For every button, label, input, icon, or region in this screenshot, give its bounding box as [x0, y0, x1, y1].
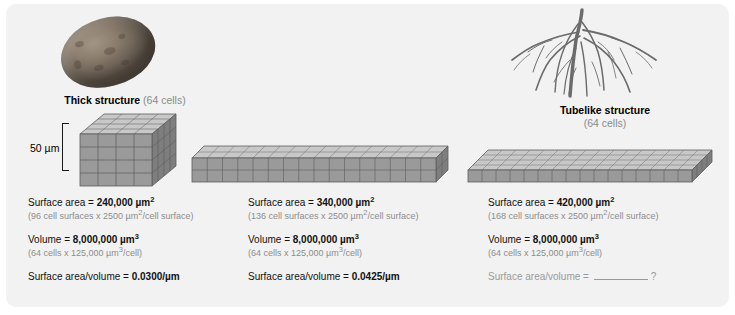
surface-area-detail-tube: (136 cell surfaces x 2500 µm — [248, 211, 363, 221]
cells-note-thick: (64 cells) — [143, 94, 186, 106]
ratio-value-thick: 0.0300/µm — [132, 271, 180, 282]
surface-area-value-thick: 240,000 µm — [97, 197, 151, 208]
stats-flattened-structure: Surface area = 420,000 µm2 (168 cell sur… — [488, 196, 728, 283]
block-tubelike-structure — [190, 144, 452, 186]
surface-area-value-flat: 420,000 µm — [557, 197, 611, 208]
surface-area-exp-tube: 2 — [370, 195, 374, 204]
volume-detail-end-thick: /cell) — [123, 248, 142, 258]
volume-exp-tube: 3 — [355, 232, 359, 241]
scale-label: 50 µm — [30, 142, 59, 154]
cube-4x4x4-svg — [76, 112, 188, 194]
ratio-question-mark: ? — [651, 271, 657, 282]
volume-value-flat: 8,000,000 µm — [533, 234, 595, 245]
volume-block-flat: Volume = 8,000,000 µm3 (64 cells x 125,0… — [488, 233, 728, 259]
ratio-thick: Surface area/volume = 0.0300/µm — [28, 270, 253, 283]
title-thick: Thick structure — [64, 94, 140, 106]
volume-detail-thick: (64 cells x 125,000 µm — [28, 248, 119, 258]
block-thick-structure — [76, 112, 186, 192]
stats-thick-structure: Surface area = 240,000 µm2 (96 cell surf… — [28, 196, 253, 283]
volume-detail-flat: (64 cells x 125,000 µm — [488, 248, 579, 258]
volume-block-thick: Volume = 8,000,000 µm3 (64 cells x 125,0… — [28, 233, 253, 259]
surface-area-exp-thick: 2 — [150, 195, 154, 204]
surface-area-detail-end-flat: /cell surface) — [607, 211, 658, 221]
heading-thick-structure: Thick structure (64 cells) — [0, 94, 250, 107]
surface-area-label-tube: Surface area = — [248, 197, 317, 208]
surface-area-exp-flat: 2 — [610, 195, 614, 204]
surface-area-block-flat: Surface area = 420,000 µm2 (168 cell sur… — [488, 196, 728, 222]
surface-area-detail-thick: (96 cell surfaces x 2500 µm — [28, 211, 138, 221]
volume-label-flat: Volume = — [488, 234, 533, 245]
volume-label-thick: Volume = — [28, 234, 73, 245]
stats-tubelike-structure: Surface area = 340,000 µm2 (136 cell sur… — [248, 196, 483, 283]
surface-area-label-thick: Surface area = — [28, 197, 97, 208]
ratio-label-tube: Surface area/volume = — [248, 271, 352, 282]
volume-detail-end-tube: /cell) — [343, 248, 362, 258]
potato-tuber-photo — [53, 7, 163, 98]
volume-label-tube: Volume = — [248, 234, 293, 245]
volume-detail-tube: (64 cells x 125,000 µm — [248, 248, 339, 258]
ratio-label-flat: Surface area/volume = — [488, 271, 592, 282]
ratio-answer-blank[interactable] — [594, 270, 648, 280]
surface-area-block-tube: Surface area = 340,000 µm2 (136 cell sur… — [248, 196, 483, 222]
slab-1x4x16-svg — [466, 146, 718, 186]
scale-bracket — [62, 123, 69, 171]
surface-area-block-thick: Surface area = 240,000 µm2 (96 cell surf… — [28, 196, 253, 222]
surface-area-label-flat: Surface area = — [488, 197, 557, 208]
surface-area-detail-end-tube: /cell surface) — [367, 211, 418, 221]
surface-area-detail-flat: (168 cell surfaces x 2500 µm — [488, 211, 603, 221]
volume-value-tube: 8,000,000 µm — [293, 234, 355, 245]
volume-block-tube: Volume = 8,000,000 µm3 (64 cells x 125,0… — [248, 233, 483, 259]
ratio-value-tube: 0.0425/µm — [352, 271, 400, 282]
surface-area-detail-end-thick: /cell surface) — [142, 211, 193, 221]
scale-bar: 50 µm — [30, 124, 69, 172]
surface-area-value-tube: 340,000 µm — [317, 197, 371, 208]
ratio-flat: Surface area/volume = ? — [488, 270, 728, 283]
ratio-tube: Surface area/volume = 0.0425/µm — [248, 270, 483, 283]
volume-exp-thick: 3 — [135, 232, 139, 241]
volume-value-thick: 8,000,000 µm — [73, 234, 135, 245]
ratio-label-thick: Surface area/volume = — [28, 271, 132, 282]
bar-2x2x16-svg — [190, 144, 454, 188]
volume-detail-end-flat: /cell) — [583, 248, 602, 258]
surface-area-volume-figure: Thick structure (64 cells) 50 µm — [0, 0, 735, 315]
volume-exp-flat: 3 — [595, 232, 599, 241]
block-flattened-structure — [466, 146, 716, 184]
